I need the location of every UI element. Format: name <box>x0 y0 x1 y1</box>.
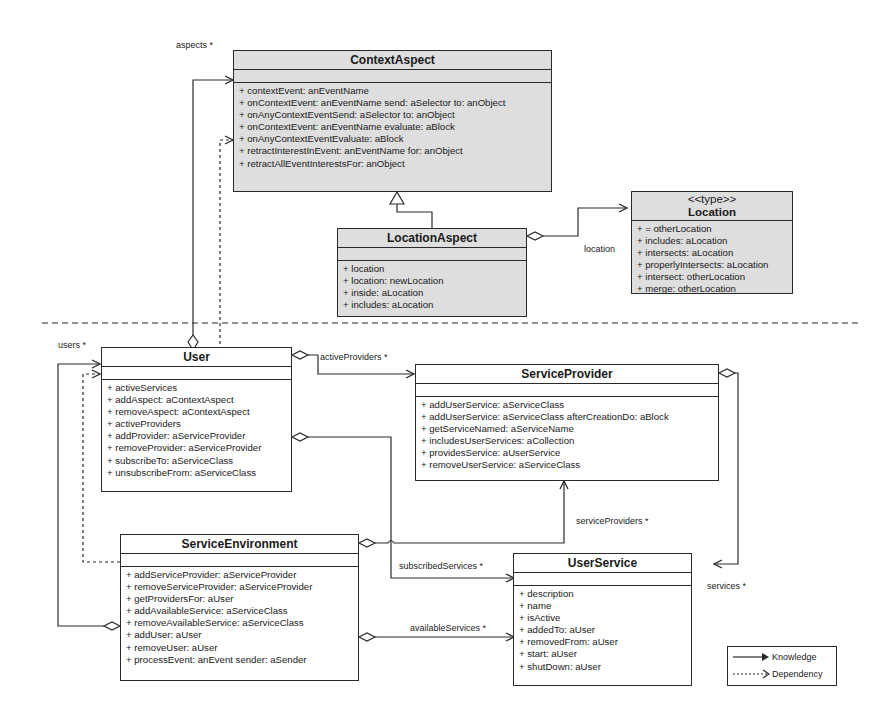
operation: + shutDown: aUser <box>519 661 687 673</box>
operation: + name <box>519 600 687 612</box>
operation: + onAnyContextEventSend: aSelector to: a… <box>239 109 547 121</box>
generalization-triangle <box>390 192 404 204</box>
attributes-compartment <box>514 573 691 586</box>
operation: + removeServiceProvider: aServiceProvide… <box>126 581 354 593</box>
operation: + getProvidersFor: aUser <box>126 593 354 605</box>
operation: + providesService: aUserService <box>421 447 714 459</box>
attributes-compartment <box>338 248 526 261</box>
operation: + onContextEvent: anEventName send: aSel… <box>239 97 547 109</box>
operation: + removeUser: aUser <box>126 642 354 654</box>
legend-dependency-label: Dependency <box>772 669 823 679</box>
operations-compartment: + addUserService: aServiceClass + addUse… <box>416 397 718 474</box>
label-services: services * <box>707 581 746 591</box>
operation: + removeUserService: aServiceClass <box>421 459 714 471</box>
operation: + intersect: otherLocation <box>637 271 788 283</box>
operations-compartment: + description + name + isActive + addedT… <box>514 586 691 675</box>
attributes-compartment <box>234 70 551 83</box>
class-location-aspect: LocationAspect + location + location: ne… <box>337 228 527 317</box>
operation: + contextEvent: anEventName <box>239 85 547 97</box>
operation: + onContextEvent: anEventName evaluate: … <box>239 121 547 133</box>
operation: + unsubscribeFrom: aServiceClass <box>107 467 287 479</box>
class-header: <<type>> Location <box>632 192 792 221</box>
legend-dependency: Dependency <box>732 669 823 679</box>
operation: + merge: otherLocation <box>637 283 788 295</box>
operation: + addProvider: aServiceProvider <box>107 430 287 442</box>
operation: + removeProvider: aServiceProvider <box>107 442 287 454</box>
operation: + subscribeTo: aServiceClass <box>107 455 287 467</box>
operation: + addedTo: aUser <box>519 624 687 636</box>
operation: + includes: aLocation <box>637 235 788 247</box>
operations-compartment: + = otherLocation + includes: aLocation … <box>632 221 792 298</box>
operation: + addUserService: aServiceClass afterCre… <box>421 411 714 423</box>
attributes-compartment <box>121 554 358 567</box>
operation: + removeAspect: aContextAspect <box>107 406 287 418</box>
class-name: ServiceProvider <box>416 365 718 384</box>
legend: Knowledge Dependency <box>727 646 837 686</box>
operation: + retractInterestInEvent: anEventName fo… <box>239 145 547 157</box>
class-service-provider: ServiceProvider + addUserService: aServi… <box>415 364 719 481</box>
operation: + removedFrom: aUser <box>519 636 687 648</box>
operation: + retractAllEventInterestsFor: anObject <box>239 158 547 170</box>
operation: + location: newLocation <box>343 275 522 287</box>
class-name: LocationAspect <box>338 229 526 248</box>
operation: + activeServices <box>107 382 287 394</box>
operation: + includesUserServices: aCollection <box>421 435 714 447</box>
label-aspects: aspects * <box>176 40 213 50</box>
operation: + properlyIntersects: aLocation <box>637 259 788 271</box>
operation: + removeAvailableService: aServiceClass <box>126 617 354 629</box>
class-context-aspect: ContextAspect + contextEvent: anEventNam… <box>233 50 552 192</box>
class-user-service: UserService + description + name + isAct… <box>513 553 692 686</box>
operation: + = otherLocation <box>637 223 788 235</box>
label-users: users * <box>58 340 86 350</box>
attributes-compartment <box>102 367 291 380</box>
service-providers-association <box>375 481 564 543</box>
user-contextaspect-dependency <box>220 140 233 350</box>
users-association <box>58 364 104 626</box>
class-name: User <box>102 348 291 367</box>
aspects-association <box>193 80 233 335</box>
operation: + isActive <box>519 612 687 624</box>
operation: + addAvailableService: aServiceClass <box>126 605 354 617</box>
solid-arrow-icon <box>732 652 770 662</box>
class-name: ContextAspect <box>234 51 551 70</box>
class-name: Location <box>688 206 736 218</box>
dashed-arrow-icon <box>732 669 770 679</box>
class-service-environment: ServiceEnvironment + addServiceProvider:… <box>120 534 359 681</box>
location-association <box>543 208 627 236</box>
label-active-providers: activeProviders * <box>320 352 388 362</box>
operation: + addUser: aUser <box>126 629 354 641</box>
class-user: User + activeServices + addAspect: aCont… <box>101 347 292 492</box>
operation: + addServiceProvider: aServiceProvider <box>126 569 354 581</box>
operation: + addUserService: aServiceClass <box>421 399 714 411</box>
operation: + onAnyContextEventEvaluate: aBlock <box>239 133 547 145</box>
operation: + addAspect: aContextAspect <box>107 394 287 406</box>
operation: + start: aUser <box>519 648 687 660</box>
operation: + description <box>519 588 687 600</box>
attributes-compartment <box>416 384 718 397</box>
class-location: <<type>> Location + = otherLocation + in… <box>631 191 793 294</box>
operations-compartment: + location + location: newLocation + ins… <box>338 261 526 313</box>
legend-knowledge: Knowledge <box>732 652 817 662</box>
operations-compartment: + activeServices + addAspect: aContextAs… <box>102 380 291 481</box>
generalization-line <box>397 203 432 228</box>
operation: + intersects: aLocation <box>637 247 788 259</box>
label-service-providers: serviceProviders * <box>576 516 649 526</box>
operations-compartment: + addServiceProvider: aServiceProvider +… <box>121 567 358 668</box>
operation: + getServiceNamed: aServiceName <box>421 423 714 435</box>
label-location: location <box>584 244 615 254</box>
operations-compartment: + contextEvent: anEventName + onContextE… <box>234 83 551 172</box>
class-name: ServiceEnvironment <box>121 535 358 554</box>
operation: + processEvent: anEvent sender: aSender <box>126 654 354 666</box>
legend-knowledge-label: Knowledge <box>772 652 817 662</box>
stereotype: <<type>> <box>632 193 792 206</box>
label-available-services: availableServices * <box>410 623 486 633</box>
operation: + location <box>343 263 522 275</box>
label-subscribed-services: subscribedServices * <box>399 561 483 571</box>
operation: + inside: aLocation <box>343 287 522 299</box>
class-name: UserService <box>514 554 691 573</box>
operation: + includes: aLocation <box>343 299 522 311</box>
operation: + activeProviders <box>107 418 287 430</box>
